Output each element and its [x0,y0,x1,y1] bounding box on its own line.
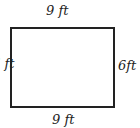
label-left-side: 6 ft [0,56,14,71]
rectangle [10,27,115,108]
label-right-side: 6ft [118,58,136,73]
label-bottom-side: 9 ft [52,112,74,127]
label-top-side: 9 ft [46,3,68,18]
